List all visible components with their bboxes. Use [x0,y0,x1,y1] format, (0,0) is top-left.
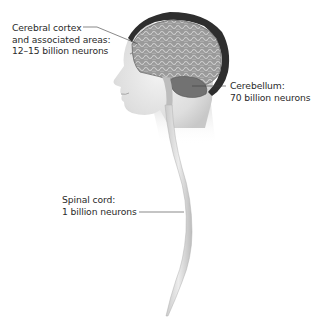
label-line: Cerebral cortex [12,22,111,34]
label-spinal-cord: Spinal cord: 1 billion neurons [62,194,137,217]
label-line: and associated areas: [12,34,111,46]
label-line: 1 billion neurons [62,206,137,218]
label-cerebral-cortex: Cerebral cortex and associated areas: 12… [12,22,111,57]
label-line: Spinal cord: [62,194,137,206]
label-line: 12–15 billion neurons [12,45,111,57]
label-cerebellum: Cerebellum: 70 billion neurons [230,80,310,103]
label-line: 70 billion neurons [230,92,310,104]
brain-neuron-diagram: Cerebral cortex and associated areas: 12… [0,0,324,328]
label-line: Cerebellum: [230,80,310,92]
